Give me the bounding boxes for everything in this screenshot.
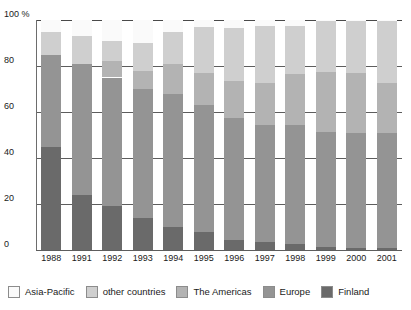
legend-item-the-americas[interactable]: The Americas [176,286,251,298]
bar-segment-2001-finland [377,248,397,250]
bar-segment-1999-the-americas [316,72,336,132]
bar-segment-1993-other-countries [133,43,153,71]
bar-segment-1991-asia-pacific [72,20,92,36]
bar-segment-1999-asia-pacific [316,20,336,21]
x-tick-label-1999: 1999 [311,252,342,264]
bar-segment-1996-the-americas [224,81,244,118]
bar-segment-2000-the-americas [346,73,366,133]
bar-1988 [41,20,61,250]
bar-segment-2001-other-countries [377,20,397,82]
bar-1992 [102,20,122,250]
bar-segment-1994-asia-pacific [163,20,183,32]
bar-segment-1988-finland [41,147,61,251]
x-tick-label-1995: 1995 [189,252,220,264]
bar-segment-2000-finland [346,248,366,250]
y-tick-label-60: 60 [4,102,14,111]
bar-segment-1996-asia-pacific [224,20,244,28]
legend-label: Asia-Pacific [25,286,75,298]
x-tick-label-1991: 1991 [67,252,98,264]
bar-segment-1991-europe [72,64,92,195]
legend-swatch-icon [8,286,20,298]
bar-segment-1998-asia-pacific [285,20,305,26]
legend-swatch-icon [263,286,275,298]
x-tick-label-1997: 1997 [250,252,281,264]
y-axis-line [36,20,37,250]
bar-segment-1988-europe [41,55,61,147]
bar-segment-1994-the-americas [163,64,183,94]
bar-segment-1995-europe [194,105,214,232]
bar-2000 [346,20,366,250]
legend-item-europe[interactable]: Europe [263,286,311,298]
bar-segment-1999-finland [316,247,336,250]
legend-swatch-icon [321,286,333,298]
x-axis-tick-labels: 1988199119921993199419951996199719981999… [36,252,402,266]
stacked-bar-chart: 020406080100 % 1988199119921993199419951… [0,0,411,310]
bar-segment-1991-other-countries [72,36,92,64]
plot-area [36,20,402,250]
bar-1999 [316,20,336,250]
bar-segment-1998-other-countries [285,26,305,74]
legend-label: Finland [338,286,369,298]
bar-segment-1993-europe [133,89,153,218]
bar-1998 [285,20,305,250]
bar-segment-1992-other-countries [102,41,122,62]
x-tick-label-1992: 1992 [97,252,128,264]
legend-label: The Americas [193,286,251,298]
legend-item-other-countries[interactable]: other countries [86,286,166,298]
y-tick-label-40: 40 [4,148,14,157]
gridline-0 [36,250,402,251]
bar-segment-1993-asia-pacific [133,20,153,43]
legend-item-asia-pacific[interactable]: Asia-Pacific [8,286,75,298]
bar-segment-1992-finland [102,206,122,250]
legend-swatch-icon [86,286,98,298]
y-tick-label-0: 0 [4,240,9,249]
bar-segment-2000-europe [346,133,366,248]
bar-segment-1998-the-americas [285,74,305,125]
bar-segment-1988-other-countries [41,32,61,55]
bar-segment-1993-finland [133,218,153,250]
bar-1997 [255,20,275,250]
bar-segment-1994-other-countries [163,32,183,64]
y-tick-label-20: 20 [4,194,14,203]
x-tick-label-1996: 1996 [219,252,250,264]
bar-segment-1999-europe [316,132,336,247]
legend-swatch-icon [176,286,188,298]
bar-segment-1999-other-countries [316,21,336,72]
bar-segment-1992-europe [102,78,122,207]
bar-segment-1994-finland [163,227,183,250]
bar-1995 [194,20,214,250]
legend-label: Europe [280,286,311,298]
bar-1993 [133,20,153,250]
bar-group [36,20,402,250]
bar-segment-1992-asia-pacific [102,20,122,41]
bar-segment-1997-the-americas [255,83,275,124]
legend-label: other countries [103,286,166,298]
x-tick-label-1998: 1998 [280,252,311,264]
bar-1996 [224,20,244,250]
bar-segment-1995-the-americas [194,73,214,105]
x-tick-label-1994: 1994 [158,252,189,264]
bar-segment-1997-other-countries [255,26,275,84]
bar-segment-1992-the-americas [102,61,122,77]
chart-legend: Asia-Pacificother countriesThe AmericasE… [0,283,411,301]
bar-segment-1995-other-countries [194,27,214,73]
bar-1991 [72,20,92,250]
bar-segment-1996-other-countries [224,28,244,81]
bar-segment-2001-europe [377,133,397,248]
x-tick-label-1988: 1988 [36,252,67,264]
bar-segment-1997-finland [255,242,275,250]
x-tick-label-1993: 1993 [128,252,159,264]
bar-segment-1997-asia-pacific [255,20,275,26]
x-tick-label-2001: 2001 [372,252,403,264]
bar-segment-1994-europe [163,94,183,227]
bar-segment-1995-finland [194,232,214,250]
y-axis-tick-labels: 020406080100 % [0,20,36,250]
bar-segment-1988-asia-pacific [41,20,61,32]
bar-segment-1997-europe [255,125,275,242]
bar-segment-2000-other-countries [346,20,366,73]
bar-segment-1998-europe [285,125,305,245]
bar-segment-1996-europe [224,118,244,240]
y-tick-label-100: 100 % [4,10,30,19]
bar-segment-1995-asia-pacific [194,20,214,27]
legend-item-finland[interactable]: Finland [321,286,369,298]
